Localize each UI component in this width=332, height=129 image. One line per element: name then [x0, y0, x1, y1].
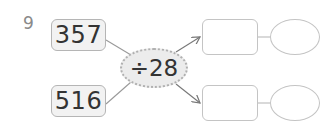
remainder-answer-oval-1[interactable] — [270, 19, 320, 55]
dividend-box-2: 516 — [51, 85, 106, 117]
remainder-answer-oval-2[interactable] — [270, 85, 320, 121]
dividend-box-1: 357 — [51, 19, 106, 51]
question-number: 9 — [23, 13, 34, 33]
quotient-answer-box-2[interactable] — [202, 85, 258, 121]
divide-operation-oval: ÷28 — [120, 48, 188, 88]
quotient-answer-box-1[interactable] — [202, 19, 258, 55]
